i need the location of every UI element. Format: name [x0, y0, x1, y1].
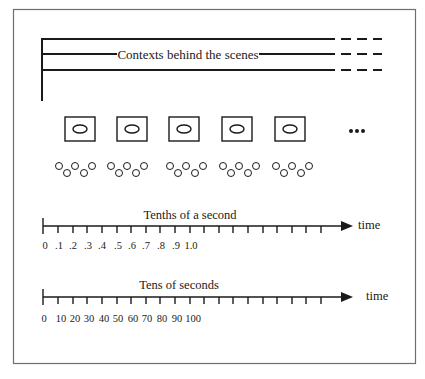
svg-text:.4: .4 — [98, 240, 107, 251]
svg-text:.5: .5 — [114, 240, 122, 251]
svg-text:0: 0 — [42, 240, 47, 251]
svg-text:.2: .2 — [69, 240, 77, 251]
svg-text:50: 50 — [113, 313, 124, 324]
svg-text:1.0: 1.0 — [184, 240, 197, 251]
arrow-head-icon — [341, 292, 353, 302]
timeline-title: Tens of seconds — [139, 278, 219, 292]
axis-label-time: time — [366, 289, 389, 303]
timeline-title: Tenths of a second — [143, 208, 237, 222]
svg-text:.3: .3 — [84, 240, 92, 251]
svg-text:.9: .9 — [172, 240, 180, 251]
svg-text:20: 20 — [70, 313, 81, 324]
scene-boxes — [65, 117, 305, 141]
timeline-tens: Tens of seconds time — [41, 278, 388, 324]
svg-text:30: 30 — [84, 313, 95, 324]
svg-text:10: 10 — [56, 313, 67, 324]
scene-box — [222, 117, 252, 141]
diagram-canvas: Contexts behind the scenes — [0, 0, 425, 379]
figure-frame — [14, 10, 416, 364]
circle-group — [108, 163, 148, 177]
svg-text:70: 70 — [142, 313, 153, 324]
arrow-head-icon — [341, 221, 353, 231]
scene-box — [169, 117, 199, 141]
circle-group — [167, 163, 207, 177]
svg-text:100: 100 — [185, 313, 201, 324]
svg-text:.7: .7 — [142, 240, 150, 251]
circle-group — [56, 163, 96, 177]
tick-labels: 0 10 20 30 40 50 60 70 80 90 100 — [41, 313, 201, 324]
timeline-tenths: Tenths of a second time — [42, 208, 380, 251]
scene-box — [65, 117, 95, 141]
svg-text:80: 80 — [157, 313, 168, 324]
timeline-ticks — [58, 226, 321, 233]
timeline-ticks — [58, 297, 321, 304]
svg-text:40: 40 — [99, 313, 110, 324]
svg-text:0: 0 — [41, 313, 46, 324]
tick-labels: 0 .1 .2 .3 .4 .5 .6 .7 .8 .9 1.0 — [42, 240, 197, 251]
ellipsis-dots — [349, 129, 365, 133]
axis-label-time: time — [358, 218, 381, 232]
svg-text:.6: .6 — [128, 240, 136, 251]
svg-text:.1: .1 — [55, 240, 63, 251]
svg-text:.8: .8 — [157, 240, 165, 251]
svg-text:60: 60 — [128, 313, 139, 324]
circle-groups — [56, 163, 313, 177]
circle-group — [273, 163, 313, 177]
circle-group — [220, 163, 260, 177]
contexts-label: Contexts behind the scenes — [117, 47, 258, 62]
svg-text:90: 90 — [172, 313, 183, 324]
scene-box — [117, 117, 147, 141]
context-dashes — [341, 39, 382, 70]
diagram-figure: Contexts behind the scenes — [0, 0, 425, 379]
scene-box — [275, 117, 305, 141]
